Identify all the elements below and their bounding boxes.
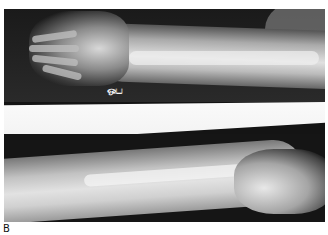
panel-label: B — [3, 224, 10, 234]
lower-hand — [234, 149, 325, 214]
xray-film — [4, 9, 325, 222]
film-marker: ஒப — [107, 84, 122, 95]
upper-forearm-bone — [129, 51, 319, 65]
finger-bone — [29, 45, 79, 52]
